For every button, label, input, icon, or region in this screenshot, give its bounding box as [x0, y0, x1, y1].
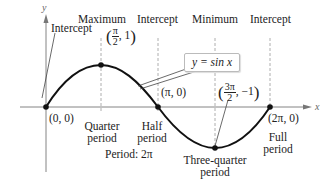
label-intercept-right: Intercept: [250, 13, 291, 25]
y-axis-label: y: [42, 2, 46, 14]
full-period-label: Fullperiod: [260, 131, 296, 155]
label-intercept-mid: Intercept: [137, 13, 178, 25]
x-axis-label: x: [315, 101, 319, 113]
function-callout: y = sin x: [184, 53, 240, 72]
origin-label: (0, 0): [49, 112, 74, 124]
two-pi-label: (2π, 0): [268, 112, 299, 124]
label-maximum: Maximum: [78, 13, 126, 25]
label-minimum: Minimum: [192, 13, 238, 25]
min-point-label: (3π2, −1): [218, 82, 259, 103]
pi-point-label: (π, 0): [161, 86, 186, 98]
three-quarter-period-label: Three-quarterperiod: [183, 154, 247, 178]
period-label: Period: 2π: [105, 148, 153, 160]
quarter-period-label: Quarterperiod: [84, 120, 120, 144]
y-axis-arrow-icon: [44, 14, 49, 23]
half-period-label: Halfperiod: [134, 120, 170, 144]
max-point-label: (π2, 1): [106, 26, 136, 47]
x-axis-arrow-icon: [303, 105, 312, 110]
